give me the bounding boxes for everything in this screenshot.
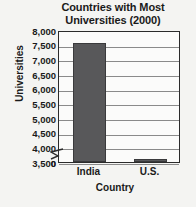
y-axis-tick-label: 5,000 <box>14 115 56 124</box>
chart-title: Countries with Most Universities (2000) <box>30 1 196 27</box>
x-axis-tick-label: U.S. <box>119 166 180 178</box>
y-axis-tick-label: 8,000 <box>14 27 56 36</box>
chart-title-line-1: Countries with Most <box>30 1 196 14</box>
bar-chart: Countries with Most Universities (2000) … <box>0 0 196 207</box>
y-axis-tick-label: 4,500 <box>14 129 56 138</box>
y-axis-tick-labels: 8,0007,5007,0006,5006,0005,5005,0004,500… <box>14 28 56 163</box>
y-axis-tick-label: 6,500 <box>14 71 56 80</box>
y-axis-tick-label: 7,500 <box>14 41 56 50</box>
plot-area <box>58 31 180 163</box>
x-axis-title: Country <box>40 182 190 193</box>
y-axis-tick-label: 6,000 <box>14 85 56 94</box>
bar <box>134 159 167 162</box>
gridline <box>59 164 179 165</box>
x-axis-tick-labels: IndiaU.S. <box>58 166 180 180</box>
bar <box>73 43 106 162</box>
y-axis-break-icon <box>50 148 66 164</box>
x-axis-tick-label: India <box>58 166 119 178</box>
y-axis-tick-label: 5,500 <box>14 100 56 109</box>
y-axis-tick-label: 7,000 <box>14 56 56 65</box>
